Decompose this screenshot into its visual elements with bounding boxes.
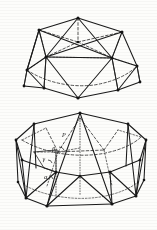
- lower-visible-edges: [16, 113, 146, 206]
- label-beta: β: [52, 147, 55, 152]
- label-p: P: [62, 133, 66, 138]
- lower-polyhedron: [15, 112, 148, 208]
- figure-root: P β γ α: [0, 0, 157, 230]
- label-alpha: α: [44, 175, 48, 180]
- upper-polyhedron: [0, 0, 157, 230]
- lower-central-axis: [56, 118, 80, 196]
- label-gamma: γ: [42, 157, 45, 162]
